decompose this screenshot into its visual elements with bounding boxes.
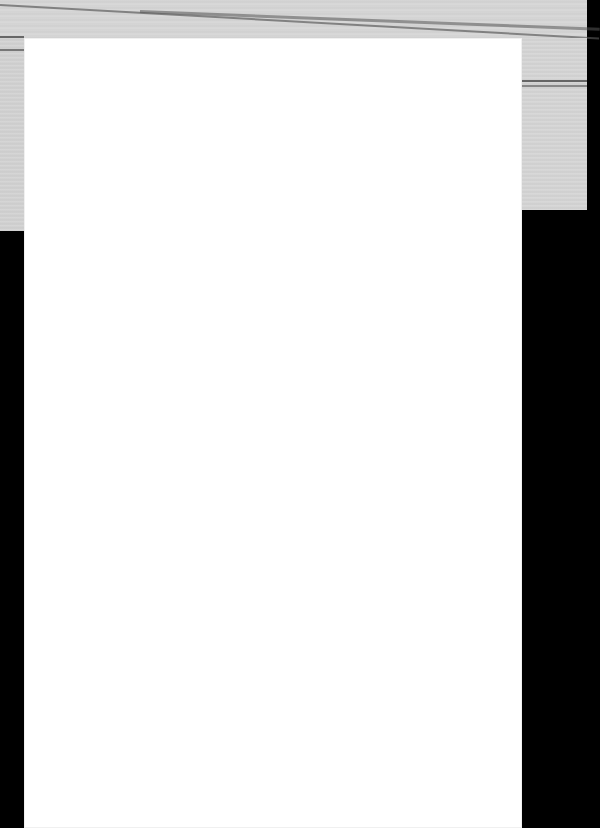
lid-streak	[0, 36, 24, 38]
lid-streak	[522, 85, 587, 87]
blank-paper-page	[24, 38, 522, 828]
scanner-lid-right-edge	[522, 38, 587, 210]
page-text	[24, 38, 522, 828]
lid-streak	[140, 10, 600, 31]
lid-streak	[0, 4, 599, 39]
lid-streak	[522, 80, 587, 82]
lid-streak	[0, 49, 24, 51]
scanner-lid-left-edge	[0, 38, 24, 231]
